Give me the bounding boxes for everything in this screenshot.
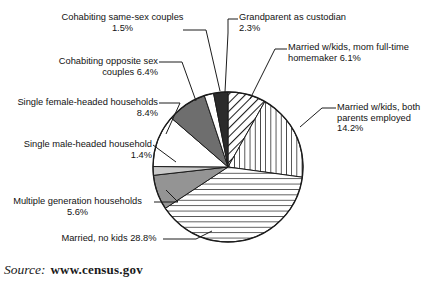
source-label: Source: [4,262,45,277]
label-multiple-generation-households: Multiple generation households 5.6% [2,196,153,217]
label-married-kids-both-employed: Married w/kids, both parents employed 14… [337,102,429,134]
label-single-male-headed-household: Single male-headed household 1.4% [16,139,152,160]
label-single-female-headed-households: Single female-headed households 8.4% [16,97,158,118]
leader-grandparent [225,19,238,92]
label-cohabiting-opposite-sex-couples: Cohabiting opposite sex couples 6.4% [36,56,158,77]
leader-cohabiting-opposite-sex [159,62,196,101]
label-cohabiting-same-sex-couples: Cohabiting same-sex couples 1.5% [60,12,185,33]
label-married-no-kids: Married, no kids 28.8% [56,233,162,244]
pie-chart-figure: Cohabiting same-sex couples 1.5% Grandpa… [0,0,430,288]
leader-both-parents-employed [300,108,336,127]
source-caption: Source:www.census.gov [4,262,143,278]
pie-slices [153,92,303,242]
source-url: www.census.gov [50,262,142,277]
leader-mom-homemaker [250,49,287,99]
leader-cohabiting-same-sex [183,30,220,91]
label-married-kids-mom-homemaker: Married w/kids, mom full-time homemaker … [288,42,426,63]
label-grandparent-as-custodian: Grandparent as custodian 2.3% [239,12,369,33]
